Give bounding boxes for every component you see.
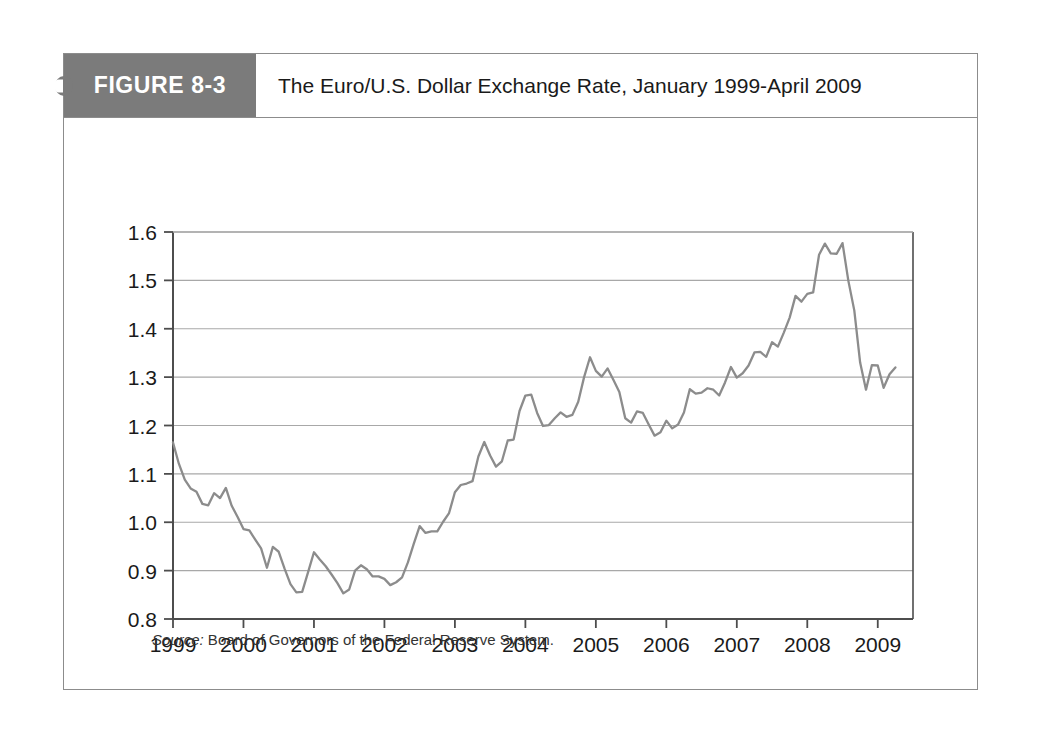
figure-number-tab: FIGURE 8-3 xyxy=(64,54,256,117)
figure-number-label: FIGURE 8-3 xyxy=(94,72,227,99)
x-axis-tick-label: 2007 xyxy=(713,633,760,656)
source-text: Board of Governors of the Federal Reserv… xyxy=(204,631,554,648)
y-axis-tick-label: 1.0 xyxy=(128,511,157,534)
x-axis-tick-label: 2005 xyxy=(572,633,619,656)
x-axis-tick-label: 2006 xyxy=(643,633,690,656)
y-axis-label-group: 0.80.91.01.11.21.31.41.51.6 xyxy=(128,221,158,631)
tab-notch-decoration xyxy=(55,76,73,96)
y-axis-tick-label: 1.5 xyxy=(128,269,157,292)
source-note: Source: Board of Governors of the Federa… xyxy=(152,631,554,648)
y-axis-tick-label: 1.6 xyxy=(128,221,157,244)
source-label: Source: xyxy=(152,631,204,648)
x-axis-tick-label: 2009 xyxy=(854,633,901,656)
chart-plot-area: 0.80.91.01.11.21.31.41.51.6 199920002001… xyxy=(64,118,977,689)
y-axis-tick-label: 1.4 xyxy=(128,318,158,341)
y-axis-tick-label: 1.1 xyxy=(128,463,157,486)
y-axis-tick-group xyxy=(164,232,173,619)
figure-container: FIGURE 8-3 The Euro/U.S. Dollar Exchange… xyxy=(63,53,978,690)
x-axis-tick-group xyxy=(173,619,878,628)
exchange-rate-series-line xyxy=(173,243,895,593)
figure-header: FIGURE 8-3 The Euro/U.S. Dollar Exchange… xyxy=(64,54,977,118)
page-title: The Euro/U.S. Dollar Exchange Rate, Janu… xyxy=(278,74,862,98)
y-axis-tick-label: 0.8 xyxy=(128,608,157,631)
exchange-rate-line-chart: 0.80.91.01.11.21.31.41.51.6 199920002001… xyxy=(64,118,977,689)
x-axis-tick-label: 2008 xyxy=(784,633,831,656)
figure-title-container: The Euro/U.S. Dollar Exchange Rate, Janu… xyxy=(256,54,977,117)
y-axis-tick-label: 0.9 xyxy=(128,560,157,583)
gridline-group xyxy=(173,232,913,571)
y-axis-tick-label: 1.3 xyxy=(128,366,157,389)
y-axis-tick-label: 1.2 xyxy=(128,415,157,438)
